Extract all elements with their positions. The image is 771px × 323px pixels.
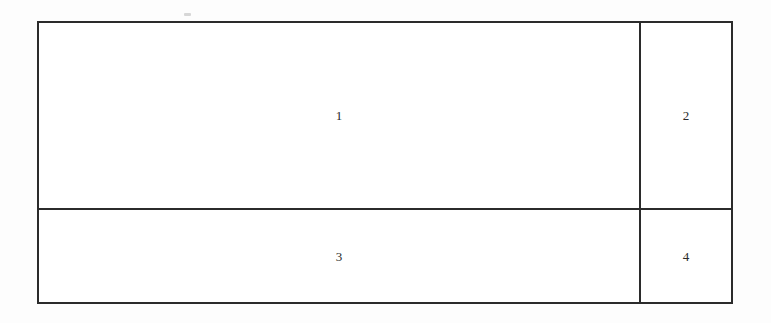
partitioned-rectangle-figure: 1 2 3 4 (37, 21, 733, 304)
region-cell-4: 4 (641, 210, 731, 302)
scan-speck-artifact (184, 13, 191, 16)
region-cell-2: 2 (641, 23, 731, 208)
region-cell-1: 1 (39, 23, 639, 208)
region-label-1: 1 (336, 109, 343, 122)
region-cell-3: 3 (39, 210, 639, 302)
scan-canvas: 1 2 3 4 (0, 0, 771, 323)
region-label-4: 4 (683, 250, 690, 263)
region-label-3: 3 (336, 250, 343, 263)
region-label-2: 2 (683, 109, 690, 122)
